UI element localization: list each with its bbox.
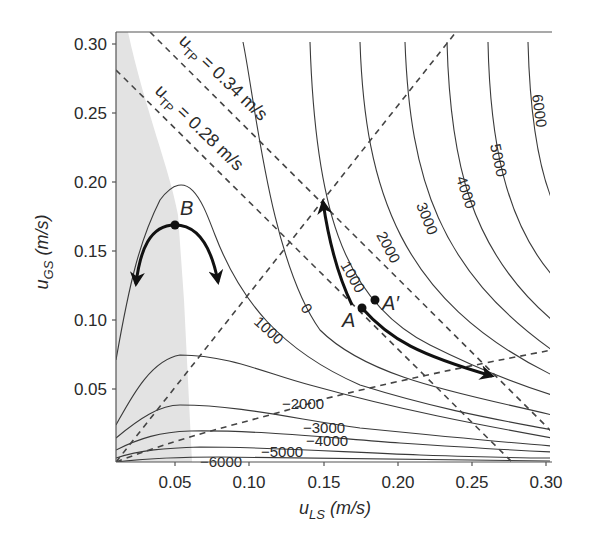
contour-label-1000: 1000 [337, 258, 368, 295]
contour-label-neg1000: 1000 [251, 313, 287, 348]
svg-text:0.10: 0.10 [74, 311, 107, 330]
y-axis-title: uGS (m/s) [32, 215, 56, 290]
y-tick-labels: 0.30 0.25 0.20 0.15 0.10 0.05 [74, 35, 107, 399]
trajectory-a-down [362, 308, 492, 376]
x-axis-title: uLS (m/s) [299, 498, 371, 522]
dashed-utp-034 [150, 32, 552, 432]
svg-text:0.10: 0.10 [232, 473, 265, 492]
contour-label-neg4000: −4000 [306, 432, 348, 449]
svg-text:0.05: 0.05 [74, 380, 107, 399]
contour-label-neg2000: −2000 [282, 395, 324, 412]
svg-text:0.20: 0.20 [381, 473, 414, 492]
point-a-prime-label: A′ [381, 292, 400, 314]
svg-text:0.20: 0.20 [74, 173, 107, 192]
contour-label-3000: 3000 [413, 200, 441, 237]
point-a [358, 304, 367, 313]
contour-label-neg5000: −5000 [261, 443, 303, 460]
contour-chart: A A′ B 6000 5000 4000 3000 2000 1000 0 1… [0, 0, 589, 550]
contour-label-4000: 4000 [453, 174, 479, 211]
svg-text:0.25: 0.25 [74, 104, 107, 123]
svg-text:0.25: 0.25 [455, 473, 488, 492]
x-tick-labels: 0.05 0.10 0.15 0.20 0.25 0.30 [158, 473, 562, 492]
point-a-prime [371, 296, 380, 305]
point-b-label: B [180, 197, 193, 219]
contour-label-6000: 6000 [529, 93, 550, 128]
contour-2000 [360, 42, 552, 375]
point-a-label: A [341, 309, 355, 331]
svg-text:0.30: 0.30 [74, 35, 107, 54]
contour-label-0: 0 [298, 300, 317, 317]
contour-label-5000: 5000 [487, 142, 511, 178]
svg-text:0.15: 0.15 [307, 473, 340, 492]
svg-text:0.30: 0.30 [529, 473, 562, 492]
point-b [171, 221, 180, 230]
svg-text:0.05: 0.05 [158, 473, 191, 492]
svg-text:0.15: 0.15 [74, 242, 107, 261]
